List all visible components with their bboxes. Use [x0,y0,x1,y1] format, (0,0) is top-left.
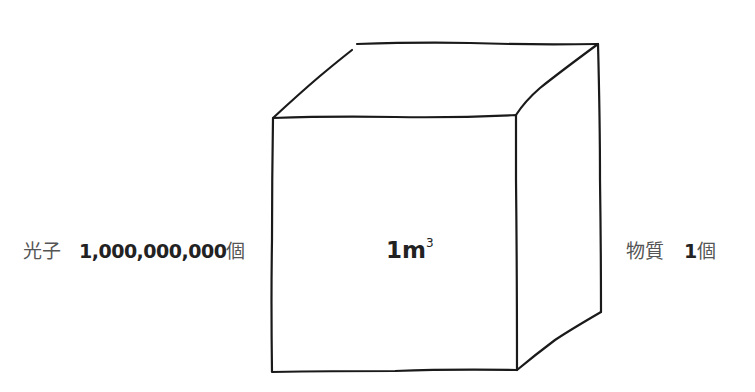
matter-count: 1 [684,240,697,262]
photon-count-label: 光子1,000,000,000個 [23,242,245,261]
photon-unit: 個 [226,240,245,262]
volume-value: 1m [386,237,426,263]
cube-bottom-right-edge [517,312,601,370]
matter-unit: 個 [697,240,716,262]
cube-drawing [0,0,755,392]
cube-top-back-edge [357,43,598,45]
volume-label: 1m3 [386,237,434,262]
cube-top-right-edge [516,44,598,115]
matter-name: 物質 [626,240,664,262]
cube-back-right-edge [598,44,601,312]
photon-count: 1,000,000,000 [79,240,226,262]
cube-top-face [273,50,352,118]
photon-name: 光子 [23,240,61,262]
volume-exponent: 3 [426,236,434,250]
matter-count-label: 物質1個 [626,242,716,261]
